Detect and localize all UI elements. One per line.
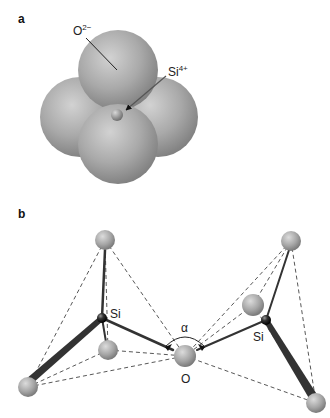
- silicon-atom-right: [261, 315, 271, 325]
- silicon-label-left: Si: [110, 307, 121, 321]
- silica-structure-figure: a O2− Si4+ b: [0, 0, 330, 418]
- oxygen-atom-left-inner: [98, 340, 118, 360]
- silicon-ion-sphere: [111, 109, 123, 121]
- si-o-bonds: [26, 250, 318, 400]
- right-tetrahedron-edges: [185, 241, 316, 403]
- panel-a-label: a: [18, 12, 25, 26]
- alpha-angle-arc: [166, 337, 204, 346]
- bridging-oxygen-label: O: [181, 372, 190, 386]
- silicon-ion-label: Si4+: [168, 64, 188, 79]
- panel-a: a O2− Si4+: [18, 12, 198, 184]
- oxygen-atom-bridging: [174, 345, 196, 367]
- oxygen-atom-bottom-right: [306, 393, 326, 413]
- oxygen-atom-top-right: [281, 231, 301, 251]
- oxygen-atom-top-left: [95, 230, 115, 250]
- oxygen-ion-label: O2−: [73, 23, 92, 38]
- oxygen-atom-bottom-left: [18, 377, 38, 397]
- panel-b: b: [18, 207, 326, 413]
- alpha-angle-label: α: [181, 321, 188, 335]
- silicon-label-right: Si: [253, 330, 264, 344]
- silicon-atom-left: [97, 313, 107, 323]
- oxygen-atom-right-inner: [242, 294, 264, 316]
- panel-b-label: b: [18, 207, 25, 221]
